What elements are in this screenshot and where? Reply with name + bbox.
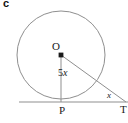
- external-point-label: T: [120, 104, 127, 115]
- item-letter-label: c: [3, 0, 9, 9]
- radius-length-label: 5x: [58, 68, 67, 78]
- geometry-figure: c O 5x P T x: [0, 0, 128, 123]
- center-point-label: O: [52, 41, 60, 52]
- radius-variable: x: [63, 67, 67, 78]
- tangent-point-label: P: [59, 105, 65, 116]
- angle-label: x: [107, 91, 111, 100]
- hypotenuse-segment-ot: [61, 55, 126, 102]
- center-point-dot: [59, 53, 64, 58]
